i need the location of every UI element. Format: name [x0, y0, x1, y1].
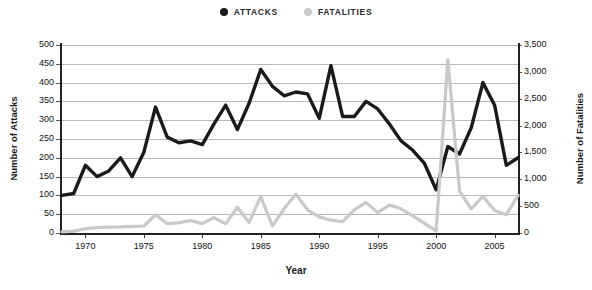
x-axis-line [60, 233, 520, 235]
x-axis-tick-label: 1990 [299, 241, 339, 251]
y-axis-right-line [518, 43, 520, 235]
plot-area: 050100150200250300350400450500 05001,000… [62, 45, 518, 233]
y-axis-left-tick-label: 150 [0, 172, 54, 181]
y-axis-left-tick-label: 0 [0, 228, 54, 237]
y-axis-left-tick-label: 500 [0, 40, 54, 49]
x-axis-tick-label: 1980 [182, 241, 222, 251]
legend-dot-fatalities [304, 8, 312, 16]
y-axis-right-tick-label: 3,500 [524, 40, 584, 49]
chart-legend: ATTACKS FATALITIES [0, 7, 592, 17]
y-axis-left-tick-label: 300 [0, 115, 54, 124]
chart-container: ATTACKS FATALITIES Number of Attacks Num… [0, 0, 592, 290]
y-axis-left-tick-label: 400 [0, 78, 54, 87]
y-axis-right-tick-label: 1,500 [524, 147, 584, 156]
legend-item-attacks: ATTACKS [220, 7, 278, 17]
y-axis-right-tick-label: 1,000 [524, 174, 584, 183]
legend-label-attacks: ATTACKS [234, 7, 278, 17]
x-axis-title: Year [0, 265, 592, 276]
series-lines [62, 45, 518, 233]
y-axis-right-tick-label: 0 [524, 228, 584, 237]
y-axis-left-tick-label: 100 [0, 190, 54, 199]
y-axis-left-tick-label: 50 [0, 209, 54, 218]
legend-dot-attacks [220, 8, 228, 16]
y-axis-left-tick-label: 200 [0, 153, 54, 162]
x-axis-tick-label: 2000 [416, 241, 456, 251]
y-axis-right-tick-label: 3,000 [524, 67, 584, 76]
y-axis-left-tick-label: 250 [0, 134, 54, 143]
x-axis-tick-label: 1995 [358, 241, 398, 251]
y-axis-right-tick-label: 500 [524, 201, 584, 210]
y-axis-left-tick-label: 350 [0, 96, 54, 105]
x-axis-tick-label: 1975 [124, 241, 164, 251]
x-axis-tick-label: 2005 [475, 241, 515, 251]
y-axis-right-tick-label: 2,500 [524, 94, 584, 103]
legend-item-fatalities: FATALITIES [304, 7, 372, 17]
x-axis-tick-label: 1970 [65, 241, 105, 251]
y-axis-left-tick-label: 450 [0, 59, 54, 68]
y-axis-right-tick-label: 2,000 [524, 121, 584, 130]
legend-label-fatalities: FATALITIES [318, 7, 372, 17]
x-axis-tick-label: 1985 [241, 241, 281, 251]
